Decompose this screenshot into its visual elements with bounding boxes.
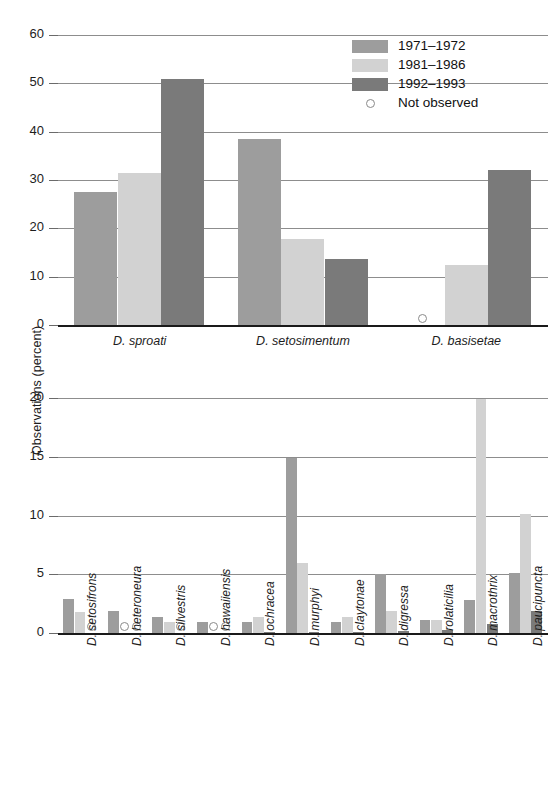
bar-lower-7-1 <box>386 611 397 633</box>
legend-swatch-series-2 <box>352 59 388 72</box>
bar-lower-6-0 <box>331 622 342 633</box>
bar-lower-6-1 <box>342 617 353 633</box>
category-label-upper-1: D. setosimentum <box>256 334 350 348</box>
category-label-lower-5: D. murphyi <box>308 588 322 646</box>
bar-lower-9-1 <box>476 399 487 633</box>
y-tick-label-lower-10: 10 <box>6 507 44 522</box>
bar-upper-1-2 <box>325 259 368 325</box>
y-tick-label-upper-50: 50 <box>6 74 44 89</box>
legend-swatch-series-3 <box>352 78 388 91</box>
bar-lower-9-0 <box>464 600 475 633</box>
ytick-upper-20 <box>49 228 58 229</box>
bar-upper-2-2 <box>488 170 531 325</box>
bar-lower-0-0 <box>63 599 74 633</box>
ytick-upper-30 <box>49 180 58 181</box>
y-tick-label-upper-30: 30 <box>6 171 44 186</box>
gridline-upper-60 <box>58 35 548 36</box>
category-label-lower-3: D. hawaiiensis <box>219 569 233 646</box>
category-label-lower-9: D. macrothrix <box>486 575 500 646</box>
bar-lower-10-1 <box>520 514 531 633</box>
bar-lower-2-1 <box>164 622 175 633</box>
ytick-lower-15 <box>49 457 58 458</box>
gridline-lower-10 <box>58 516 548 517</box>
category-label-lower-2: D. silvestris <box>174 585 188 646</box>
bar-lower-7-0 <box>375 574 386 633</box>
bar-lower-4-0 <box>242 622 253 633</box>
legend-label-1: 1981–1986 <box>398 57 466 72</box>
y-tick-label-lower-0: 0 <box>6 624 44 639</box>
not-observed-circle-icon <box>418 314 427 323</box>
category-label-lower-1: D. heteroneura <box>130 566 144 646</box>
y-axis-title: Observations (percent) <box>30 326 44 455</box>
ytick-lower-5 <box>49 574 58 575</box>
bar-lower-1-0 <box>108 611 119 633</box>
y-tick-label-upper-20: 20 <box>6 219 44 234</box>
gridline-lower-20 <box>58 398 548 399</box>
category-label-lower-4: D. ochracea <box>263 581 277 646</box>
bar-upper-0-1 <box>118 173 161 325</box>
ytick-lower-10 <box>49 516 58 517</box>
gridline-upper-40 <box>58 132 548 133</box>
legend-swatch-series-1 <box>352 40 388 53</box>
category-label-lower-0: D. setosifrons <box>85 573 99 646</box>
bar-lower-5-1 <box>297 563 308 634</box>
bar-lower-2-0 <box>152 617 163 633</box>
bar-upper-2-1 <box>445 265 488 325</box>
bar-upper-0-2 <box>161 79 204 326</box>
category-label-lower-6: D. claytonae <box>353 579 367 646</box>
y-tick-label-lower-5: 5 <box>6 565 44 580</box>
x-axis-upper <box>58 325 548 327</box>
bar-upper-0-0 <box>74 192 117 325</box>
bar-lower-0-1 <box>75 612 86 633</box>
bar-lower-3-0 <box>197 622 208 633</box>
ytick-upper-40 <box>49 132 58 133</box>
figure-root: 0102030405060D. sproatiD. setosimentumD.… <box>0 0 555 792</box>
category-label-upper-2: D. basisetae <box>432 334 501 348</box>
bar-upper-1-1 <box>281 239 324 325</box>
legend-label-0: 1971–1972 <box>398 38 466 53</box>
legend-label-2: 1992–1993 <box>398 76 466 91</box>
y-tick-label-upper-10: 10 <box>6 268 44 283</box>
ytick-lower-20 <box>49 398 58 399</box>
ytick-upper-60 <box>49 35 58 36</box>
bar-lower-5-0 <box>286 458 297 633</box>
category-label-lower-8: D. rolaticilia <box>442 584 456 646</box>
y-tick-label-upper-60: 60 <box>6 26 44 41</box>
category-label-lower-7: D. digressa <box>397 585 411 646</box>
bar-lower-8-0 <box>420 620 431 633</box>
not-observed-circle-icon <box>209 622 218 631</box>
category-label-lower-10: D. paucipuncta <box>531 566 545 646</box>
gridline-upper-50 <box>58 83 548 84</box>
ytick-upper-0 <box>49 325 58 326</box>
not-observed-circle-icon <box>366 99 375 108</box>
ytick-upper-50 <box>49 83 58 84</box>
bar-lower-10-0 <box>509 573 520 633</box>
ytick-upper-10 <box>49 277 58 278</box>
category-label-upper-0: D. sproati <box>113 334 167 348</box>
bar-lower-4-1 <box>253 617 264 633</box>
bar-upper-1-0 <box>238 139 281 325</box>
gridline-lower-15 <box>58 457 548 458</box>
legend-label-3: Not observed <box>398 95 478 110</box>
ytick-lower-0 <box>49 633 58 634</box>
bar-lower-8-1 <box>431 620 442 633</box>
not-observed-circle-icon <box>120 622 129 631</box>
y-tick-label-upper-40: 40 <box>6 123 44 138</box>
